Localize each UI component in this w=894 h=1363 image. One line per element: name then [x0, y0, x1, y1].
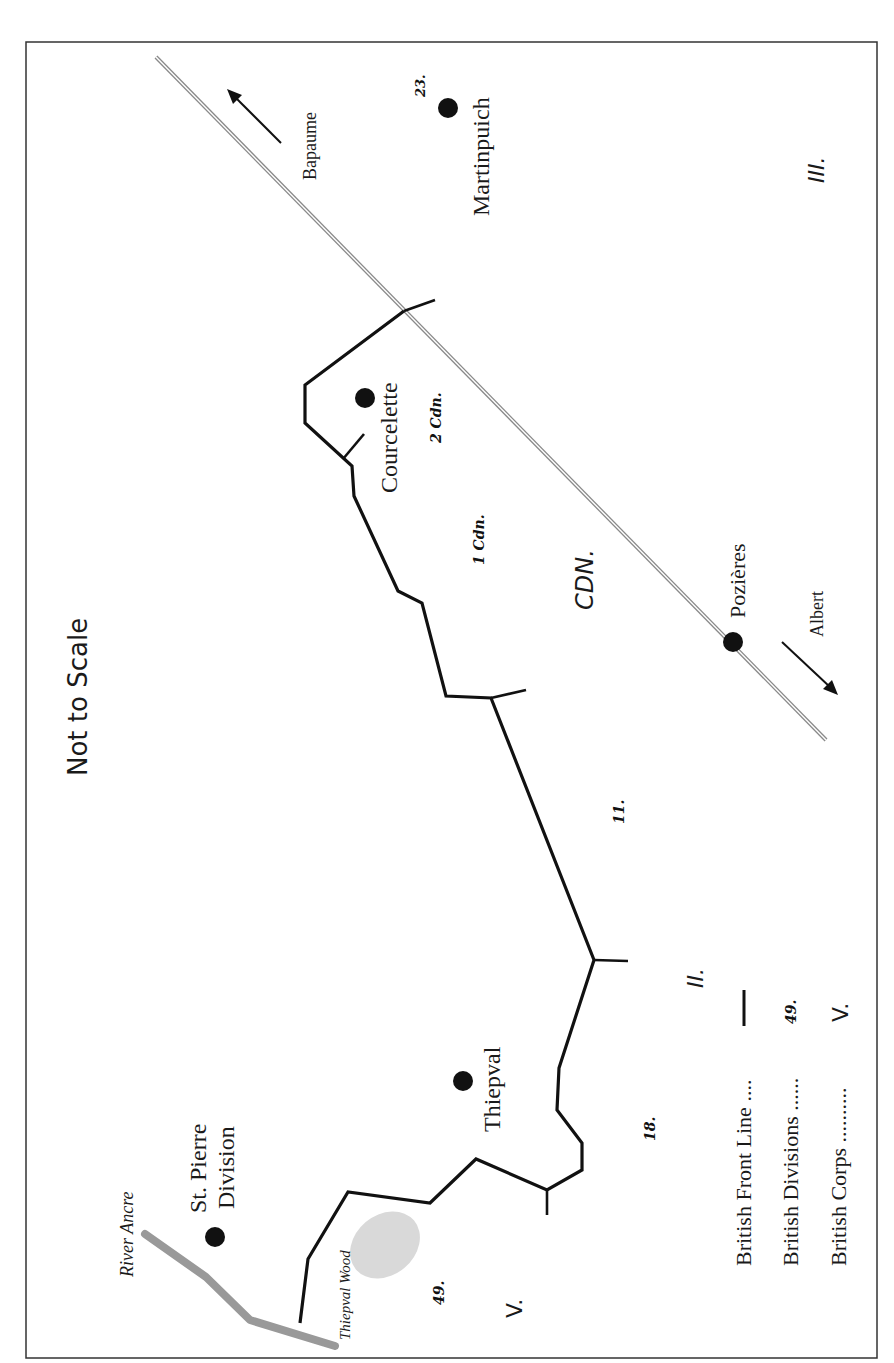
legend-divisions-sample: 49. — [783, 1000, 799, 1024]
corps-v: V. — [502, 1299, 527, 1318]
division-18: 18. — [642, 1117, 658, 1141]
town-dot-st-pierre-division — [205, 1227, 225, 1247]
town-dot-martinpuich — [438, 98, 458, 118]
town-dot-pozieres — [723, 632, 743, 652]
label-river-ancre: River Ancre — [117, 1192, 137, 1278]
division-49: 49. — [431, 1281, 447, 1305]
legend-corps-sample: V. — [828, 1003, 853, 1022]
corps-iii: III. — [804, 157, 829, 183]
label-bapaume: Bapaume — [300, 112, 320, 180]
label-pozieres: Pozières — [725, 543, 750, 618]
town-dot-thiepval — [453, 1071, 473, 1091]
legend-front-line: British Front Line .... — [731, 1080, 756, 1266]
division-2cdn: 2 Cdn. — [428, 392, 444, 444]
label-st-pierre-division: Division — [213, 1126, 239, 1209]
legend-divisions: British Divisions ...... — [778, 1078, 803, 1266]
town-dot-courcelette — [355, 388, 375, 408]
label-thiepval-wood: Thiepval Wood — [337, 1250, 353, 1340]
arrow-to-albert-icon — [782, 642, 838, 695]
battle-map: Not to Scale Bapaume Albert Martinpuich … — [0, 0, 894, 1363]
label-martinpuich: Martinpuich — [468, 97, 494, 216]
corps-ii: II. — [683, 968, 708, 988]
label-courcelette: Courcelette — [376, 382, 402, 493]
scale-note: Not to Scale — [63, 618, 93, 776]
label-thiepval: Thiepval — [479, 1046, 505, 1132]
british-front-line — [300, 311, 594, 1323]
river-ancre — [145, 1234, 335, 1346]
division-11: 11. — [611, 800, 627, 824]
label-st-pierre: St. Pierre — [185, 1124, 211, 1213]
division-23: 23. — [413, 74, 428, 98]
division-1cdn: 1 Cdn. — [471, 514, 487, 565]
corps-cdn: CDN. — [571, 549, 599, 610]
legend-corps: British Corps .......... — [826, 1088, 851, 1266]
label-albert: Albert — [807, 591, 827, 637]
legend: British Front Line .... British Division… — [731, 990, 853, 1266]
